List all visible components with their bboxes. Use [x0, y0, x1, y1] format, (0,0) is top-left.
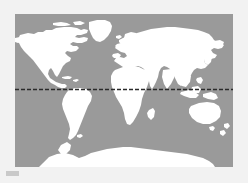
world-map-svg: [15, 14, 233, 167]
figure-root: [0, 0, 248, 183]
world-map-panel[interactable]: [15, 14, 233, 167]
caption-mark: [6, 171, 19, 176]
